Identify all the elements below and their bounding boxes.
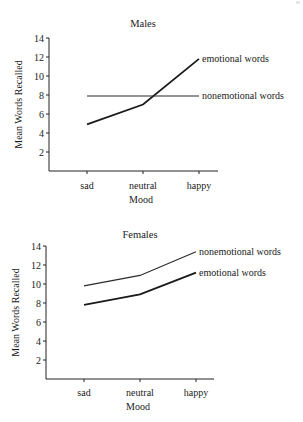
y-tick-label: 14	[31, 241, 41, 252]
axes	[46, 246, 214, 379]
y-axis-label: Mean Words Recalled	[10, 268, 21, 356]
x-tick-label: sad	[77, 387, 90, 398]
emotional-words-line	[84, 273, 196, 305]
x-tick-label: happy	[184, 387, 208, 398]
nonemotional-words-label: nonemotional words	[199, 246, 281, 257]
y-tick-label: 10	[31, 279, 41, 290]
y-tick-label: 8	[36, 298, 41, 309]
chart-svg: Females2468101214sadneutralhappyMoodMean…	[0, 0, 303, 422]
x-axis-label: Mood	[126, 401, 150, 412]
y-tick-label: 4	[36, 336, 41, 347]
emotional-words-label: emotional words	[199, 267, 266, 278]
x-tick-label: neutral	[126, 387, 154, 398]
chart-title: Females	[123, 229, 158, 240]
y-tick-label: 6	[36, 317, 41, 328]
nonemotional-words-line	[84, 252, 196, 286]
y-tick-label: 12	[31, 260, 41, 271]
y-tick-label: 2	[36, 355, 41, 366]
females-chart: Females2468101214sadneutralhappyMoodMean…	[0, 0, 303, 422]
